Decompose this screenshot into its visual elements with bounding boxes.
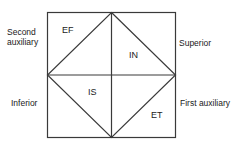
quadrant-diagram	[0, 0, 241, 143]
label-first-auxiliary: First auxiliary	[180, 98, 230, 108]
region-ef: EF	[62, 25, 74, 35]
label-second: Second	[7, 27, 38, 37]
label-second-auxiliary: Second auxiliary	[7, 27, 38, 47]
label-auxiliary: auxiliary	[7, 37, 38, 47]
label-superior: Superior	[179, 38, 211, 48]
label-inferior: Inferior	[11, 98, 37, 108]
region-in: IN	[129, 50, 138, 60]
region-is: IS	[88, 87, 97, 97]
region-et: ET	[151, 110, 163, 120]
